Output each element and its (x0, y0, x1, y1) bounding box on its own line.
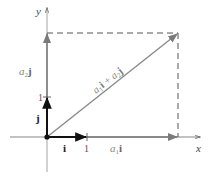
unit-vector-j-label: j (35, 112, 40, 124)
x-component-label: a1i (110, 142, 122, 156)
resultant-vector (47, 34, 177, 137)
vector-diagram: y x 1 1 i j a1i a2j a1i + a2j (0, 0, 217, 180)
x-component-vec: i (119, 142, 122, 154)
x-tick-label: 1 (84, 143, 89, 154)
y-axis-label: y (35, 5, 41, 17)
x-axis-label: x (195, 142, 201, 154)
y-tick-label: 1 (38, 92, 43, 103)
origin-point (44, 134, 49, 139)
y-component-vec: j (27, 65, 32, 77)
y-component-label: a2j (19, 65, 32, 79)
resultant-label: a1i + a2j (90, 65, 126, 97)
unit-vector-i-label: i (63, 142, 66, 154)
